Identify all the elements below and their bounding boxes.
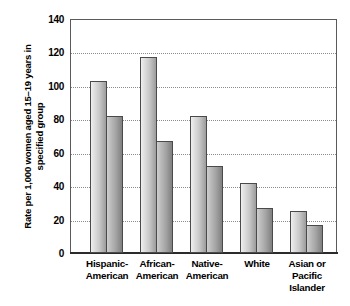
y-tick-label-80: 80	[38, 114, 64, 125]
bar	[306, 225, 323, 253]
y-axis-title-line-1: Rate per 1,000 women aged	[22, 109, 33, 229]
x-axis-category-labels: Hispanic-AmericanAfrican-AmericanNative-…	[70, 258, 337, 306]
y-tick-label-40: 40	[38, 181, 64, 192]
y-tick-label-0: 0	[38, 248, 64, 259]
x-category-label: Asian orPacificIslander	[274, 258, 340, 294]
x-category-label-line: Islander	[274, 282, 340, 294]
bar-group	[190, 19, 223, 253]
y-tick-label-20: 20	[38, 214, 64, 225]
y-tick-label-140: 140	[38, 14, 64, 25]
bar-group	[290, 19, 323, 253]
bar-group	[140, 19, 173, 253]
bar-series-container	[70, 19, 337, 253]
bar	[140, 57, 157, 253]
bar	[106, 116, 123, 253]
bar	[156, 141, 173, 253]
bar-chart-figure: Rate per 1,000 women aged 15–19 years in…	[0, 0, 350, 306]
bar-group	[90, 19, 123, 253]
y-axis-tick-labels: 140120100806040200	[38, 0, 64, 306]
x-category-label-line: Pacific	[274, 270, 340, 282]
bar	[240, 183, 257, 253]
y-tick-label-100: 100	[38, 80, 64, 91]
x-category-label-line: Asian or	[274, 258, 340, 270]
bar	[90, 81, 107, 253]
bar	[256, 208, 273, 253]
bar	[290, 211, 307, 253]
bar	[206, 166, 223, 253]
x-category-label-line: American	[174, 270, 240, 282]
bar	[190, 116, 207, 253]
y-tick-label-120: 120	[38, 47, 64, 58]
bar-group	[240, 19, 273, 253]
y-tick-label-60: 60	[38, 147, 64, 158]
